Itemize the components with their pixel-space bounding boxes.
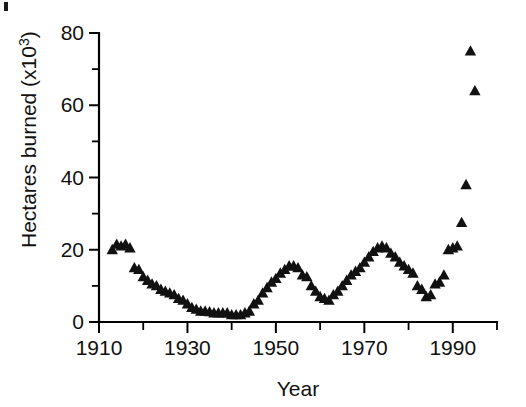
corner-artifact [4, 2, 8, 11]
data-markers [107, 45, 481, 319]
data-point-marker [460, 179, 471, 189]
x-axis-label: Year [277, 377, 319, 400]
y-tick-label: 80 [61, 21, 84, 44]
x-tick-label: 1990 [429, 336, 476, 359]
x-tick-label: 1970 [341, 336, 388, 359]
data-point-marker [438, 269, 449, 279]
x-tick-label: 1950 [253, 336, 300, 359]
y-tick-label: 60 [61, 93, 84, 116]
plot-canvas: Hectares burned (x103) Year 020406080 19… [0, 0, 526, 407]
x-tick-label: 1930 [164, 336, 211, 359]
x-tick-label: 1910 [76, 336, 123, 359]
scatter-plot-figure: Hectares burned (x103) Year 020406080 19… [0, 0, 526, 407]
y-axis-label-close: ) [17, 31, 40, 38]
y-tick-label: 40 [61, 166, 84, 189]
y-tick-label: 0 [72, 310, 84, 333]
y-axis-label: Hectares burned (x103) [16, 31, 40, 248]
y-tick-label: 20 [61, 238, 84, 261]
y-axis-label-exponent: 3 [16, 38, 32, 46]
x-axis-ticks: 19101930195019701990 [76, 322, 497, 359]
svg-text:Hectares burned (x103): Hectares burned (x103) [16, 31, 40, 248]
y-axis-label-main: Hectares burned (x10 [17, 46, 40, 248]
y-axis-ticks: 020406080 [61, 21, 99, 333]
data-point-marker [469, 85, 480, 95]
data-point-marker [465, 45, 476, 55]
data-point-marker [456, 217, 467, 227]
